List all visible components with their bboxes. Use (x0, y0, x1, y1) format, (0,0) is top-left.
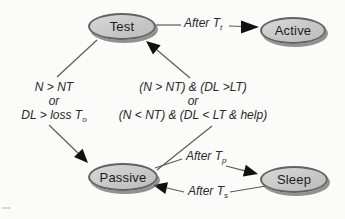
state-label-sleep: Sleep (277, 172, 311, 187)
edge-line-test-passive-upper (57, 40, 97, 77)
subscript-s: s (224, 191, 228, 200)
edge-line-passive-sleep-right (226, 166, 245, 171)
subscript-p: p (222, 156, 226, 165)
arrowhead-sleep-passive (153, 182, 168, 194)
condition-line: or (10, 94, 98, 108)
arrowhead-test-active (241, 21, 259, 34)
state-node-sleep: Sleep (260, 166, 328, 193)
edge-line-sleep-passive-right (230, 186, 266, 192)
condition-line: (N < NT) & (DL < LT & help) (108, 108, 278, 122)
edge-label-test-active: After Tt (184, 17, 222, 34)
condition-line: or (108, 94, 278, 108)
state-node-passive: Passive (88, 163, 158, 191)
edge-label-sleep-passive: After Ts (188, 185, 228, 202)
edge-line-sleep-passive-left (167, 188, 184, 192)
state-node-test: Test (88, 13, 156, 40)
state-label-active: Active (275, 23, 312, 38)
state-label-test: Test (110, 19, 135, 34)
arrowhead-passive-test (146, 41, 161, 55)
state-node-active: Active (260, 17, 326, 44)
edge-label-passive-test: (N > NT) & (DL >LT) or (N < NT) & (DL < … (108, 80, 278, 122)
arrowhead-passive-sleep (243, 165, 258, 177)
subscript-o: o (82, 115, 86, 124)
condition-line: DL > loss To (10, 108, 98, 127)
edge-line-test-active-right (229, 26, 243, 27)
scan-smudge (2, 207, 11, 209)
edge-line-passive-test-upper (157, 50, 190, 78)
state-diagram: Test Active Passive Sleep After Tt N > N… (0, 0, 345, 219)
condition-line: N > NT (10, 80, 98, 94)
edge-line-test-passive-lower (49, 125, 78, 153)
edge-label-test-passive: N > NT or DL > loss To (10, 80, 98, 127)
condition-line: (N > NT) & (DL >LT) (108, 80, 278, 94)
state-label-passive: Passive (100, 170, 147, 185)
edge-label-passive-sleep: After Tp (186, 150, 226, 167)
subscript-t: t (220, 23, 222, 32)
